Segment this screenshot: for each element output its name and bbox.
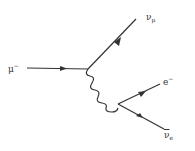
muon-neutrino-label: νμ: [146, 13, 155, 23]
muon-neutrino-flavor: μ: [151, 16, 155, 23]
antineutrino-flavor: e: [169, 134, 173, 141]
w-boson-propagator: [86, 69, 118, 112]
muon-neutrino-line: [88, 19, 136, 69]
electron-charge: −: [168, 75, 173, 82]
muon-label: μ−: [8, 63, 19, 74]
muon-arrow: [60, 66, 67, 71]
electron-label: e−: [163, 76, 173, 87]
antineutrino-label: νe: [164, 131, 173, 141]
electron-line: [118, 84, 160, 104]
muon-charge: −: [14, 62, 19, 69]
muon-line: [27, 68, 88, 69]
